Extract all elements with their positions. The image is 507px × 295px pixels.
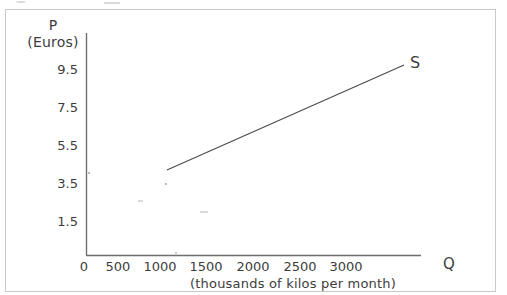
y-tick-label-3-5: 3.5	[38, 176, 78, 191]
y-tick-label-9-5: 9.5	[38, 62, 78, 77]
figure-page: P (Euros) 9.5 7.5 5.5 3.5 1.5 0 500 1000…	[0, 0, 507, 295]
x-tick-label-1000: 1000	[138, 259, 182, 274]
x-tick-label-3000: 3000	[324, 259, 368, 274]
scan-artifact	[165, 183, 167, 185]
x-tick-label-2500: 2500	[278, 259, 322, 274]
y-tick-label-5-5: 5.5	[38, 138, 78, 153]
x-tick-label-1500: 1500	[184, 259, 228, 274]
scan-artifact	[175, 252, 177, 254]
x-tick-label-2000: 2000	[231, 259, 275, 274]
x-axis-title: Q	[443, 255, 455, 273]
x-axis-unit: (thousands of kilos per month)	[190, 276, 396, 291]
y-axis-symbol: P	[22, 17, 84, 34]
scan-artifact	[88, 172, 90, 174]
y-axis-unit: (Euros)	[22, 34, 84, 51]
y-axis-title: P (Euros)	[22, 17, 84, 51]
y-tick-label-1-5: 1.5	[38, 214, 78, 229]
supply-curve-line	[167, 65, 404, 170]
y-tick-label-7-5: 7.5	[38, 100, 78, 115]
x-tick-label-500: 500	[96, 259, 140, 274]
series-label-s: S	[410, 53, 420, 72]
